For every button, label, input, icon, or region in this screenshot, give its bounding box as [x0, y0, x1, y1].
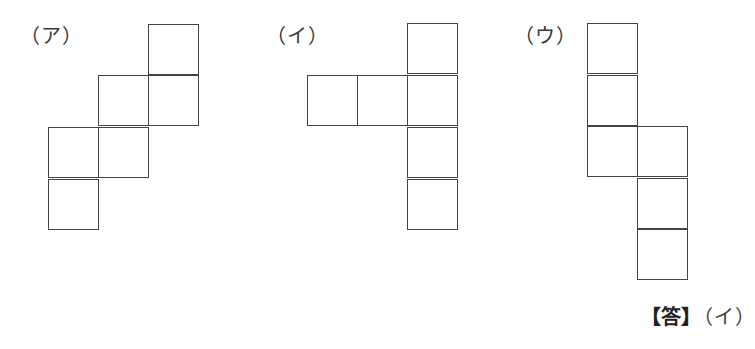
net-square: [407, 75, 458, 126]
figure-label-i: （イ）: [266, 24, 329, 48]
net-square: [587, 126, 638, 177]
net-square: [148, 24, 199, 75]
net-square: [98, 127, 149, 178]
net-square: [637, 229, 688, 280]
net-square: [587, 75, 638, 126]
answer-value: （イ）: [703, 305, 755, 329]
net-square: [148, 75, 199, 126]
net-square: [48, 127, 99, 178]
net-square: [357, 75, 408, 126]
figure-label-a: （ア）: [20, 24, 83, 48]
net-square: [637, 178, 688, 229]
net-square: [407, 127, 458, 178]
answer-key-label: 【答】: [641, 305, 701, 329]
net-square: [407, 179, 458, 230]
net-square: [637, 126, 688, 177]
net-square: [98, 75, 149, 126]
net-square: [48, 179, 99, 230]
net-square: [307, 75, 358, 126]
net-square: [407, 23, 458, 74]
answer-line: 【答】（イ）: [641, 305, 755, 329]
figure-label-u: （ウ）: [514, 24, 577, 48]
cube-nets-diagram: （ア）（イ）（ウ）: [0, 0, 755, 349]
net-square: [587, 23, 638, 74]
